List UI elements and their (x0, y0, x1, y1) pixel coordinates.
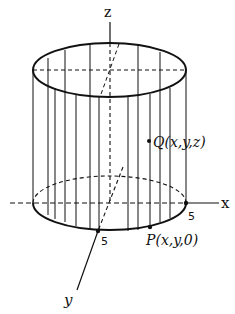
x-tick-label: 5 (188, 210, 195, 223)
point-p-label: P(x,y,0) (145, 232, 198, 248)
y-axis-label: y (63, 291, 73, 309)
bottom-ellipse-front (33, 203, 186, 230)
point-q (147, 139, 151, 143)
x-axis-label: x (221, 194, 230, 212)
point-q-label: Q(x,y,z) (153, 134, 206, 150)
y-axis (77, 231, 98, 290)
cylinder-diagram: z x y 5 5 Q(x,y,z) P(x,y,0) (0, 0, 235, 314)
point-p (148, 225, 152, 229)
y-intercept-point (96, 229, 100, 233)
z-axis-label: z (104, 4, 111, 20)
y-tick-label: 5 (101, 235, 108, 248)
x-intercept-point (184, 201, 188, 205)
